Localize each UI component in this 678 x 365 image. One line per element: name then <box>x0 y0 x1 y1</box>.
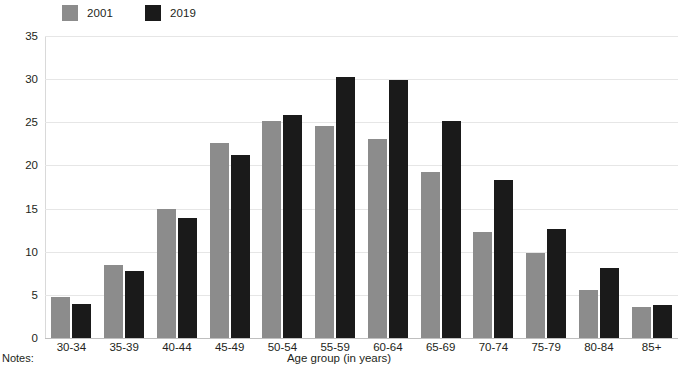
bar-2001-50-54[interactable] <box>262 121 281 338</box>
bar-group <box>473 36 513 338</box>
bar-2001-30-34[interactable] <box>51 297 70 338</box>
chart-legend: 2001 2019 <box>0 0 678 26</box>
y-tick-label-5: 5 <box>0 289 38 301</box>
bar-2019-85+[interactable] <box>653 305 672 338</box>
gridline-0 <box>45 338 678 339</box>
legend-swatch-2019 <box>145 5 161 21</box>
bar-2001-35-39[interactable] <box>104 265 123 338</box>
bar-2001-85+[interactable] <box>632 307 651 338</box>
bar-group <box>632 36 672 338</box>
bar-group <box>157 36 197 338</box>
bar-2019-80-84[interactable] <box>600 268 619 338</box>
bar-group <box>51 36 91 338</box>
bar-2001-80-84[interactable] <box>579 290 598 338</box>
y-tick-label-0: 0 <box>0 332 38 344</box>
bar-2019-75-79[interactable] <box>547 229 566 338</box>
legend-item-2001: 2001 <box>62 5 113 21</box>
bar-group <box>262 36 302 338</box>
bar-group <box>315 36 355 338</box>
y-tick-label-15: 15 <box>0 203 38 215</box>
bar-2019-65-69[interactable] <box>442 121 461 338</box>
y-tick-label-35: 35 <box>0 30 38 42</box>
bar-group <box>579 36 619 338</box>
legend-swatch-2001 <box>62 5 78 21</box>
legend-label-2019: 2019 <box>170 7 196 19</box>
y-tick-label-30: 30 <box>0 73 38 85</box>
y-tick-label-20: 20 <box>0 159 38 171</box>
bar-2001-45-49[interactable] <box>210 143 229 338</box>
bar-group <box>526 36 566 338</box>
bar-2019-40-44[interactable] <box>178 218 197 338</box>
bar-group <box>368 36 408 338</box>
bar-group <box>421 36 461 338</box>
y-tick-label-10: 10 <box>0 246 38 258</box>
x-axis-title: Age group (in years) <box>0 352 678 364</box>
chart-bars <box>45 36 678 338</box>
bar-2001-75-79[interactable] <box>526 253 545 338</box>
bar-2019-50-54[interactable] <box>283 115 302 338</box>
bar-2001-65-69[interactable] <box>421 172 440 338</box>
bar-2019-55-59[interactable] <box>336 77 355 338</box>
notes-label: Notes: <box>2 352 34 364</box>
legend-label-2001: 2001 <box>87 7 113 19</box>
bar-group <box>210 36 250 338</box>
bar-2019-30-34[interactable] <box>72 304 91 339</box>
bar-2001-70-74[interactable] <box>473 232 492 338</box>
bar-2001-60-64[interactable] <box>368 139 387 338</box>
y-tick-label-25: 25 <box>0 116 38 128</box>
bar-2019-45-49[interactable] <box>231 155 250 338</box>
bar-group <box>104 36 144 338</box>
bar-2019-35-39[interactable] <box>125 271 144 338</box>
bar-2019-60-64[interactable] <box>389 80 408 338</box>
bar-2001-55-59[interactable] <box>315 126 334 338</box>
legend-item-2019: 2019 <box>145 5 196 21</box>
bar-2001-40-44[interactable] <box>157 209 176 338</box>
bar-2019-70-74[interactable] <box>494 180 513 338</box>
